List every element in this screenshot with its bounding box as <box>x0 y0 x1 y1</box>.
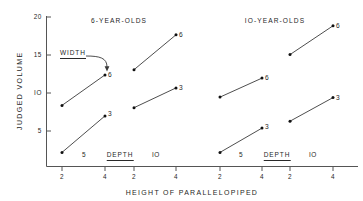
panel-1-series-6 <box>61 73 107 107</box>
panel-title-6-year-olds: 6-YEAR-OLDS <box>91 18 147 25</box>
series-end-label-p2-3: 3 <box>179 85 183 92</box>
y-tick-label-15: 15 <box>26 52 42 58</box>
y-tick-label-5: 5 <box>26 128 42 134</box>
x-tick-label-1: 2 <box>60 174 64 180</box>
depth-value-right-10: IO <box>309 152 317 159</box>
y-tick-label-10: IO <box>26 90 42 96</box>
y-axis-ticks <box>47 17 52 131</box>
panel-title-10-year-olds: IO-YEAR-OLDS <box>245 18 305 25</box>
series-end-label-p3-6: 6 <box>265 75 269 82</box>
x-tick-label-3: 2 <box>132 174 136 180</box>
depth-value-left-10: IO <box>152 152 160 159</box>
depth-value-left-5: 5 <box>82 152 86 159</box>
depth-label-left: DEPTH <box>107 152 134 161</box>
x-axis-ticks <box>62 167 333 172</box>
series-end-label-p3-3: 3 <box>265 124 269 131</box>
x-axis-title: HEIGHT OF PARALLELOPIPED <box>126 189 258 196</box>
panel-2-series-6 <box>133 33 178 71</box>
panel-4-series-6 <box>289 24 335 56</box>
x-tick-label-7: 2 <box>288 174 292 180</box>
series-end-label-p4-6: 6 <box>336 23 340 30</box>
chart-figure: 20 15 IO 5 JUDGED VOLUME 2 4 2 4 2 4 2 4… <box>0 0 363 201</box>
series-end-label-p4-3: 3 <box>336 94 340 101</box>
depth-value-right-5: 5 <box>239 152 243 159</box>
x-tick-label-4: 4 <box>174 174 178 180</box>
series-end-label-p1-6: 6 <box>108 72 112 79</box>
panel-2-series-3 <box>133 86 178 109</box>
x-tick-label-6: 4 <box>260 174 264 180</box>
series-end-label-p1-3: 3 <box>108 111 112 118</box>
panel-4-series-3 <box>289 96 335 123</box>
width-annotation-label: WIDTH <box>60 50 86 59</box>
depth-label-right: DEPTH <box>264 152 291 161</box>
panel-3-series-3 <box>219 127 264 154</box>
x-tick-label-5: 2 <box>218 174 222 180</box>
x-tick-label-8: 4 <box>331 174 335 180</box>
y-tick-label-20: 20 <box>26 14 42 20</box>
y-axis-title: JUDGED VOLUME <box>16 52 23 131</box>
panel-3-series-6 <box>219 77 264 99</box>
x-tick-label-2: 4 <box>103 174 107 180</box>
width-annotation-arrow <box>86 56 109 72</box>
series-end-label-p2-6: 6 <box>179 32 183 39</box>
panel-1-series-3 <box>61 114 107 153</box>
